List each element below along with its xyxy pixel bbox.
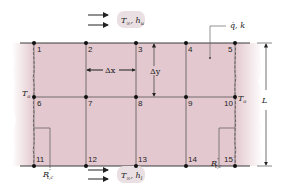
top-flow-arrows: [88, 15, 108, 25]
svg-text:11: 11: [36, 155, 45, 164]
svg-text:T∞, hl: T∞, hl: [121, 171, 143, 181]
svg-text:10: 10: [224, 99, 233, 108]
node-11: [32, 164, 36, 168]
node-13: [134, 164, 138, 168]
svg-text:Δy: Δy: [150, 67, 161, 76]
svg-text:9: 9: [188, 99, 193, 108]
node-1: [32, 41, 36, 45]
svg-text:L: L: [261, 96, 267, 105]
bottom-convection-label: T∞, hl: [117, 166, 145, 183]
node-10: [233, 95, 237, 99]
nodal-network-diagram: T∞, hu T∞, hl q̇, k Δx Δy L R″t,: [0, 0, 284, 185]
node-15: [233, 164, 237, 168]
solid-region: [34, 43, 235, 166]
svg-text:Δx: Δx: [105, 66, 116, 75]
node-14: [184, 164, 188, 168]
svg-text:7: 7: [88, 99, 93, 108]
left-wall-fade: [12, 43, 34, 166]
node-6: [32, 95, 36, 99]
svg-text:6: 6: [37, 99, 42, 108]
svg-text:3: 3: [138, 45, 143, 54]
generation-label: q̇, k: [230, 21, 245, 30]
right-wall-fade: [235, 43, 263, 166]
svg-text:4: 4: [188, 45, 193, 54]
svg-text:15: 15: [224, 155, 233, 164]
svg-text:5: 5: [228, 45, 233, 54]
top-convection-label: T∞, hu: [117, 11, 145, 28]
svg-text:R″t,c: R″t,c: [42, 168, 54, 180]
svg-text:12: 12: [88, 155, 97, 164]
node-5: [233, 41, 237, 45]
node-12: [84, 164, 88, 168]
svg-text:13: 13: [138, 155, 147, 164]
svg-text:T∞, hu: T∞, hu: [121, 16, 144, 26]
svg-text:8: 8: [138, 99, 143, 108]
svg-text:1: 1: [37, 45, 42, 54]
svg-text:14: 14: [188, 155, 197, 164]
svg-text:2: 2: [88, 45, 93, 54]
bottom-flow-arrows: [88, 170, 108, 179]
